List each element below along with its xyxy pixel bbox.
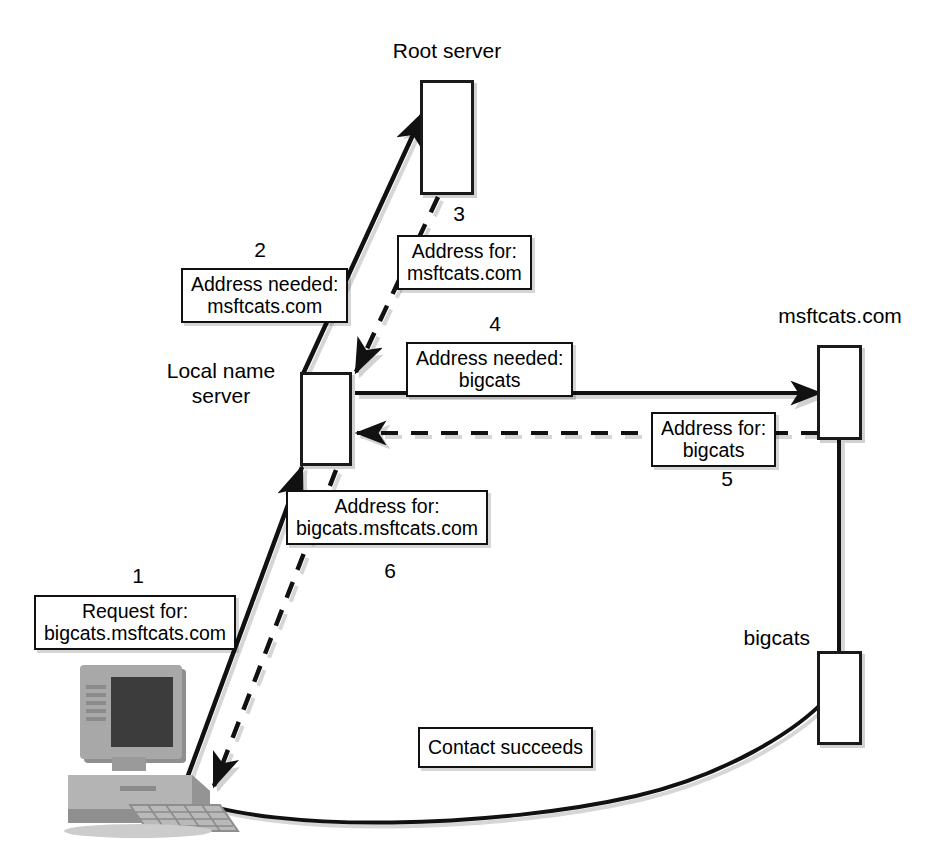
message-box-step-5[interactable]: Address for: bigcats — [651, 412, 776, 467]
step-number-1: 1 — [123, 565, 153, 587]
step-number-3: 3 — [444, 203, 474, 225]
label-local-name-server: Local name server — [148, 358, 294, 408]
step-number-4: 4 — [480, 313, 510, 335]
message-box-step-2[interactable]: Address needed: msftcats.com — [181, 268, 348, 323]
client-computer-illustration[interactable] — [60, 655, 260, 850]
message-box-step-6[interactable]: Address for: bigcats.msftcats.com — [286, 490, 488, 545]
step-number-2: 2 — [245, 239, 275, 261]
node-local-name-server[interactable] — [300, 372, 352, 466]
message-box-step-1[interactable]: Request for: bigcats.msftcats.com — [34, 595, 236, 650]
node-bigcats-host[interactable] — [817, 651, 862, 745]
message-box-step-4[interactable]: Address needed: bigcats — [406, 342, 573, 397]
label-msftcats-server: msftcats.com — [762, 303, 918, 328]
label-bigcats-host: bigcats — [700, 625, 810, 650]
step-number-6: 6 — [375, 560, 405, 582]
dns-resolution-diagram: Root server Local name server msftcats.c… — [0, 0, 936, 855]
message-box-step-3[interactable]: Address for: msftcats.com — [397, 235, 532, 290]
node-msftcats-server[interactable] — [817, 345, 862, 440]
label-root-server: Root server — [372, 38, 522, 63]
message-box-contact-succeeds[interactable]: Contact succeeds — [418, 727, 593, 768]
step-number-5: 5 — [712, 468, 742, 490]
node-root-server[interactable] — [420, 80, 474, 195]
